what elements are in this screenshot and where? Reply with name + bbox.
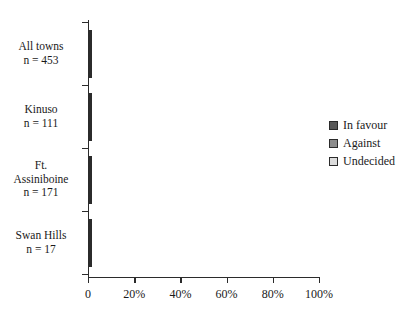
category-sample-size: n = 111 xyxy=(0,117,82,131)
legend-item-undecided: Undecided xyxy=(329,152,395,170)
category-name: Swan Hills xyxy=(0,229,82,243)
category-label-all-towns: All townsn = 453 xyxy=(0,40,82,67)
bar-segment-undecided xyxy=(90,30,92,78)
x-axis-line xyxy=(88,277,319,278)
bar-segment-undecided xyxy=(90,93,92,141)
x-axis-tick xyxy=(319,277,320,283)
x-axis-tick xyxy=(180,277,181,283)
bar-row xyxy=(88,219,319,267)
x-axis-tick-label: 80% xyxy=(262,287,284,301)
category-name: All towns xyxy=(0,40,82,54)
stacked-bar xyxy=(88,156,92,204)
stacked-bar xyxy=(88,219,92,267)
stacked-bar xyxy=(88,30,92,78)
category-sample-size: n = 453 xyxy=(0,54,82,68)
x-axis-tick-label: 60% xyxy=(216,287,238,301)
bar-row xyxy=(88,93,319,141)
category-name: Ft. xyxy=(0,159,82,173)
bar-row xyxy=(88,30,319,78)
legend-item-against: Against xyxy=(329,134,395,152)
legend-swatch-icon xyxy=(329,139,338,148)
x-axis-tick xyxy=(134,277,135,283)
category-label-kinuso: Kinuson = 111 xyxy=(0,103,82,130)
x-axis-tick xyxy=(88,277,89,283)
legend-label: In favour xyxy=(343,118,387,132)
stacked-bar-chart: All townsn = 453Kinuson = 111Ft.Assinibo… xyxy=(0,0,412,317)
category-label-ft-assiniboine: Ft.Assiniboinen = 171 xyxy=(0,159,82,200)
y-axis-tick xyxy=(82,274,88,275)
x-axis-tick xyxy=(227,277,228,283)
y-axis-tick xyxy=(82,211,88,212)
bar-segment-undecided xyxy=(90,219,92,267)
category-name: Assiniboine xyxy=(0,173,82,187)
x-axis-tick-label: 20% xyxy=(123,287,145,301)
x-axis-tick-label: 100% xyxy=(305,287,333,301)
plot-area xyxy=(88,22,319,274)
x-axis-tick-label: 40% xyxy=(169,287,191,301)
category-name: Kinuso xyxy=(0,103,82,117)
category-sample-size: n = 17 xyxy=(0,243,82,257)
category-label-swan-hills: Swan Hillsn = 17 xyxy=(0,229,82,256)
bar-segment-undecided xyxy=(90,156,92,204)
x-axis-tick-label: 0 xyxy=(85,287,91,301)
y-axis-tick xyxy=(82,22,88,23)
legend-label: Against xyxy=(343,136,380,150)
y-axis-tick xyxy=(82,85,88,86)
y-axis-tick xyxy=(82,148,88,149)
legend-label: Undecided xyxy=(343,154,395,168)
legend-swatch-icon xyxy=(329,157,338,166)
legend-swatch-icon xyxy=(329,121,338,130)
legend-item-in-favour: In favour xyxy=(329,116,395,134)
stacked-bar xyxy=(88,93,92,141)
bar-row xyxy=(88,156,319,204)
x-axis-tick xyxy=(273,277,274,283)
chart-legend: In favourAgainstUndecided xyxy=(329,116,395,170)
category-sample-size: n = 171 xyxy=(0,186,82,200)
